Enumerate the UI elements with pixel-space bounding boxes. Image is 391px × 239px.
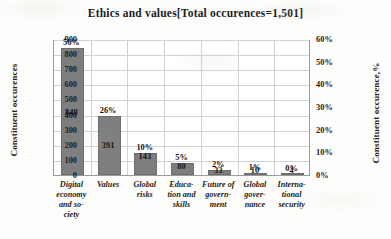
secondary-y-axis-title: Constituent occurence,% [371,43,381,183]
category-label: Interna- tional security [273,180,310,210]
category-label: Future of govern- ment [200,180,237,210]
secondary-y-tick-label: 30% [316,104,356,112]
bar-value-label: 33 [198,167,238,175]
chart-title: Ethics and values[Total occurences=1,501… [0,7,391,19]
category-label: Digital economy and so- ciety [53,180,90,220]
bar-value-label: 391 [88,142,128,150]
secondary-y-tick-label: 60% [316,36,356,44]
y-tick-label: 500 [37,96,77,104]
bar-value-label: 143 [125,153,165,161]
gridline [54,40,309,41]
category-label: Values [90,180,127,190]
bar-value-label: 840 [51,109,91,117]
category-separator [238,40,239,175]
category-label: Educa- tion and skills [163,180,200,210]
gridline [54,70,309,71]
secondary-y-tick-label: 10% [316,149,356,157]
gridline [54,55,309,56]
gridline [54,100,309,101]
gridline [54,85,309,86]
y-axis-title: Constituent occurences [9,40,19,180]
bar-value-label: 4 [272,167,312,175]
secondary-y-tick-label: 50% [316,59,356,67]
y-tick-label: 100 [37,157,77,165]
bar-value-label: 10 [235,167,275,175]
bar-percent-label: 26% [88,107,128,115]
category-label: Global risks [126,180,163,200]
bar-chart: Ethics and values[Total occurences=1,501… [0,0,391,239]
y-tick-label: 700 [37,66,77,74]
secondary-y-tick-label: 0% [316,172,356,180]
category-label: Global gover- nance [237,180,274,210]
y-tick-label: 200 [37,142,77,150]
y-tick-label: 800 [37,51,77,59]
y-tick-label: 300 [37,127,77,135]
gridline [54,116,309,117]
secondary-y-tick-label: 40% [316,81,356,89]
secondary-y-tick-label: 20% [316,127,356,135]
bar-value-label: 80 [162,163,202,171]
category-separator [274,40,275,175]
bar-percent-label: 56% [51,39,91,47]
y-tick-label: 600 [37,81,77,89]
gridline [54,131,309,132]
